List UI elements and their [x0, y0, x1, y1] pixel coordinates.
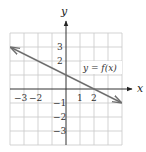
x-axis-label: x — [137, 82, 144, 95]
y-tick-label: −2 — [53, 112, 66, 122]
x-tick-label: −3 — [14, 93, 28, 103]
function-graph: x y −3 −2 1 2 3 2 −1 −2 −3 y = f(x) — [0, 0, 146, 152]
y-axis-label: y — [60, 5, 68, 18]
y-tick-label: 3 — [57, 42, 63, 52]
function-line — [11, 48, 38, 62]
y-tick-label: −3 — [53, 126, 67, 136]
x-tick-label: −2 — [29, 93, 42, 103]
y-tick-label: 2 — [57, 56, 63, 66]
x-tick-label: 2 — [91, 93, 97, 103]
function-label: y = f(x) — [82, 63, 117, 73]
y-tick-label: −1 — [53, 98, 66, 108]
x-tick-label: 1 — [77, 93, 83, 103]
